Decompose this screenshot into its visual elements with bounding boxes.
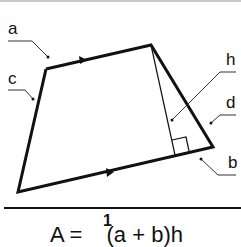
trapezoid-outline: [18, 45, 213, 192]
right-angle-marker: [172, 137, 189, 151]
leader-d: [211, 115, 236, 123]
formula-rhs: (a + b)h: [107, 222, 183, 247]
trapezoid-diagram: [0, 0, 241, 247]
divider-line: [4, 207, 241, 209]
parallel-arrow-top: [79, 56, 87, 64]
label-c: c: [8, 70, 17, 87]
leader-a: [8, 41, 48, 57]
formula-fraction-numerator: 1: [103, 212, 112, 230]
height-line: [151, 45, 175, 155]
label-d: d: [226, 94, 235, 111]
label-h: h: [226, 51, 235, 68]
area-formula: A = (a + b)h: [50, 222, 183, 247]
formula-lhs: A =: [50, 222, 89, 247]
label-a: a: [8, 20, 17, 37]
label-b: b: [228, 154, 237, 171]
leader-c: [8, 90, 33, 99]
